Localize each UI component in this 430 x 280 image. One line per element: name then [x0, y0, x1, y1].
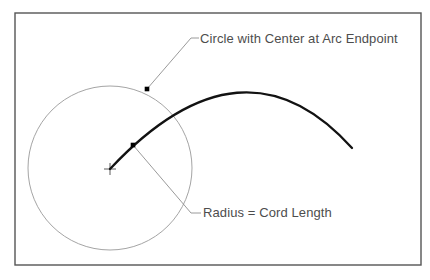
main-arc: [110, 92, 352, 169]
arc-endpoint-marker-point: [131, 143, 136, 148]
label-radius-equals-cord-length: Radius = Cord Length: [203, 205, 332, 220]
label-circle-with-center-at-arc-endpoint: Circle with Center at Arc Endpoint: [200, 31, 398, 46]
leader-circle-center: [147, 38, 199, 89]
arc-circle-intersection-point: [145, 87, 150, 92]
diagram-canvas: Circle with Center at Arc Endpoint Radiu…: [0, 0, 430, 280]
diagram-frame: [15, 13, 421, 265]
